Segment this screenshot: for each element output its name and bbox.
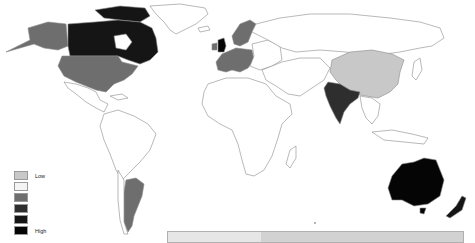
region-iceland bbox=[198, 26, 210, 32]
legend-swatch-5 bbox=[14, 215, 28, 224]
region-new-zealand bbox=[446, 196, 466, 218]
region-southeast-asia bbox=[360, 96, 380, 124]
region-canada-islands bbox=[95, 6, 150, 22]
bottom-panel-right bbox=[261, 232, 463, 242]
region-scandinavia bbox=[232, 20, 256, 46]
legend-low-label: Low bbox=[35, 173, 45, 179]
region-caribbean bbox=[110, 94, 128, 100]
region-alaska bbox=[6, 22, 68, 52]
legend-swatch-1 bbox=[14, 171, 28, 180]
region-madagascar bbox=[286, 146, 296, 168]
region-australia bbox=[388, 158, 444, 206]
region-argentina bbox=[124, 178, 144, 232]
region-indonesia bbox=[372, 130, 428, 144]
map-speck bbox=[314, 222, 316, 224]
region-south-america bbox=[100, 110, 156, 180]
bottom-panel-left bbox=[168, 232, 261, 242]
legend-swatch-4 bbox=[14, 204, 28, 213]
region-japan bbox=[412, 58, 422, 80]
region-tasmania bbox=[420, 208, 426, 214]
legend-swatch-3 bbox=[14, 193, 28, 202]
region-africa bbox=[202, 78, 292, 176]
legend-swatch-6 bbox=[14, 226, 28, 235]
bottom-panel bbox=[167, 231, 464, 243]
legend-swatch-2 bbox=[14, 182, 28, 191]
region-ireland bbox=[212, 43, 217, 50]
legend-high-label: High bbox=[35, 228, 46, 234]
region-united-kingdom bbox=[218, 38, 226, 52]
